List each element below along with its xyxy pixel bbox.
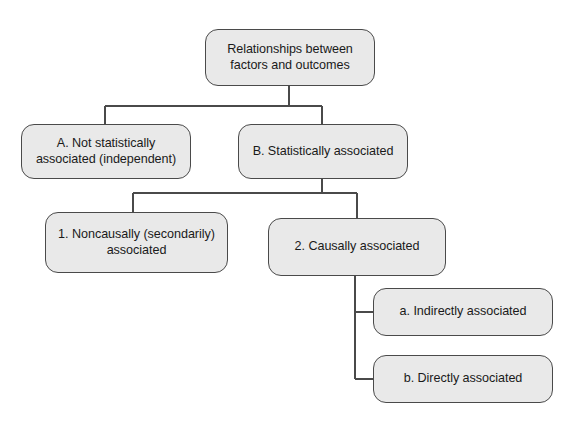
node-1-noncausally-associated: 1. Noncausally (secondarily) associated xyxy=(45,212,228,273)
node-b-statistically-associated: B. Statistically associated xyxy=(238,124,408,179)
node-a-not-statistically-associated: A. Not statistically associated (indepen… xyxy=(21,124,191,179)
node-b-directly-associated: b. Directly associated xyxy=(373,355,553,403)
node-a-indirectly-associated: a. Indirectly associated xyxy=(373,288,553,336)
node-relationships-root: Relationships between factors and outcom… xyxy=(205,29,375,86)
node-2-causally-associated: 2. Causally associated xyxy=(268,218,446,276)
diagram-canvas: Relationships between factors and outcom… xyxy=(0,0,575,431)
